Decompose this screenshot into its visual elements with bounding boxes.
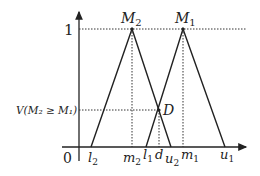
peak-label-M1: M1 (174, 10, 196, 28)
x-label-u1: u1 (220, 147, 234, 164)
x-label-d: d (155, 147, 163, 162)
peak-M1-point (181, 27, 184, 30)
v-label: V(M₂ ≥ M₁) (16, 104, 77, 116)
origin-label: 0 (63, 150, 72, 166)
peak-label-M2: M2 (120, 10, 142, 28)
triangle-M1 (146, 29, 225, 147)
intersection-label-D: D (162, 102, 174, 118)
intersection-D-point (157, 108, 160, 111)
fuzzy-diagram: 1 0 V(M₂ ≥ M₁) M2 M1 D l2 m2 l1 d u2 m1 … (0, 0, 260, 176)
x-label-l2: l2 (88, 150, 98, 167)
y-tick-one: 1 (64, 21, 74, 39)
x-label-m1: m1 (181, 147, 199, 164)
x-label-u2: u2 (165, 151, 179, 168)
x-label-l1: l1 (143, 147, 153, 164)
peak-M2-point (130, 27, 133, 30)
x-label-m2: m2 (123, 150, 141, 167)
